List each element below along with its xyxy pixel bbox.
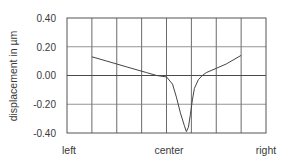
plot-grid [67, 18, 266, 133]
x-label-left: left [62, 144, 76, 156]
y-tick-label: 0.20 [37, 42, 57, 53]
x-tick-labels: left center right [62, 144, 276, 156]
y-tick-label: 0.00 [37, 70, 57, 81]
y-tick-labels: 0.40 0.20 0.00 -0.20 -0.40 [33, 13, 56, 139]
x-label-center: center [154, 144, 184, 156]
y-tick-label: 0.40 [37, 13, 57, 24]
y-tick-label: -0.20 [33, 99, 56, 110]
x-label-right: right [256, 144, 277, 156]
y-tick-label: -0.40 [33, 128, 56, 139]
displacement-chart: displacement in µm 0.40 0.20 0.00 -0.20 … [0, 0, 287, 163]
y-axis-label: displacement in µm [7, 30, 19, 121]
